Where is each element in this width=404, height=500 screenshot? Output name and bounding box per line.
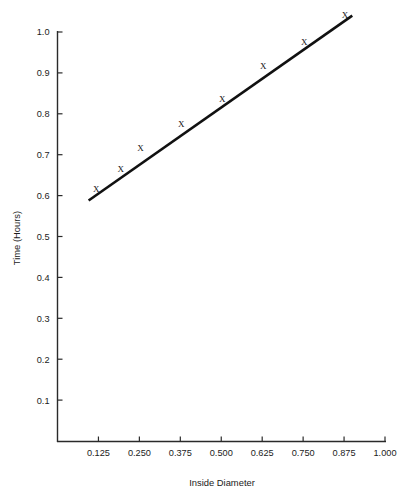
y-axis-title: Time (Hours): [11, 211, 22, 265]
data-point-marker: X: [117, 164, 124, 174]
y-tick-label: 0.4: [37, 273, 50, 283]
chart-figure: 0.10.20.30.40.50.60.70.80.91.0 0.1250.25…: [0, 0, 404, 500]
x-tick-label: 0.250: [128, 448, 151, 458]
x-tick-label: 0.125: [87, 448, 110, 458]
x-axis-title: Inside Diameter: [189, 477, 255, 488]
y-tick-label: 0.7: [37, 150, 50, 160]
data-point-marker: X: [260, 61, 267, 71]
x-tick-label: 1.000: [374, 448, 397, 458]
x-tick-label: 0.500: [210, 448, 233, 458]
y-tick-label: 0.6: [37, 191, 50, 201]
x-tick-label: 0.625: [251, 448, 274, 458]
y-tick-label: 0.9: [37, 68, 50, 78]
data-point-marker: X: [342, 10, 349, 20]
x-tick-label: 0.375: [169, 448, 192, 458]
y-tick-label: 0.3: [37, 314, 50, 324]
y-tick-label: 0.8: [37, 109, 50, 119]
chart-canvas: 0.10.20.30.40.50.60.70.80.91.0 0.1250.25…: [0, 0, 404, 500]
x-tick-label: 0.875: [333, 448, 356, 458]
y-tick-label: 1.0: [37, 27, 50, 37]
y-tick-label: 0.5: [37, 232, 50, 242]
chart-background: [0, 0, 404, 500]
data-point-marker: X: [301, 37, 308, 47]
data-point-marker: X: [137, 143, 144, 153]
data-point-marker: X: [93, 184, 100, 194]
x-tick-label: 0.750: [292, 448, 315, 458]
data-point-marker: X: [219, 94, 226, 104]
y-tick-label: 0.2: [37, 355, 50, 365]
data-point-marker: X: [178, 119, 185, 129]
y-tick-label: 0.1: [37, 396, 50, 406]
